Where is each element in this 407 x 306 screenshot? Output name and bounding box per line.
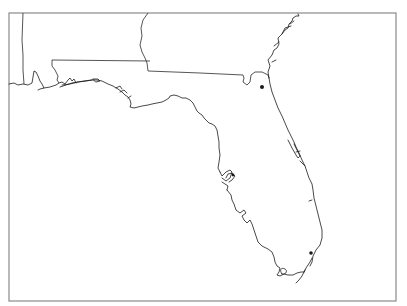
georgia-atlantic-coastline: [268, 14, 299, 78]
alabama-florida-border: [52, 60, 150, 83]
gulf-coastline-west: [9, 71, 76, 90]
city-marker-north: [260, 85, 264, 89]
city-marker-tampa: [232, 174, 235, 177]
west-coastline: [220, 170, 304, 276]
florida-keys: [281, 258, 312, 283]
florida-map: [0, 0, 407, 306]
city-marker-south: [309, 251, 313, 255]
georgia-florida-border: [148, 71, 269, 85]
panhandle-coastline: [62, 80, 220, 172]
mississippi-alabama-border: [22, 13, 24, 84]
barrier-islands-panhandle: [60, 79, 131, 98]
indian-river-lagoon: [288, 140, 312, 201]
map-frame: [9, 13, 396, 301]
alabama-georgia-border: [140, 13, 148, 71]
east-coastline: [269, 78, 322, 266]
